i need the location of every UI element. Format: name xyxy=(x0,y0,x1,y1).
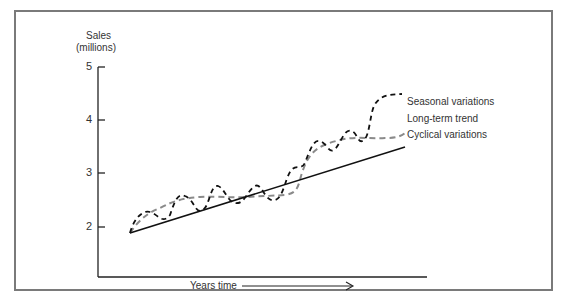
series-trend xyxy=(130,147,405,233)
legend-trend: Long-term trend xyxy=(407,113,478,124)
legend-cyclical: Cyclical variations xyxy=(407,129,487,140)
x-axis-arrow-icon xyxy=(242,282,353,290)
series-cyclical xyxy=(130,133,405,233)
axes xyxy=(98,67,427,277)
x-axis-title: Years time xyxy=(190,280,237,291)
legend-seasonal: Seasonal variations xyxy=(407,96,494,107)
series-seasonal xyxy=(130,94,402,233)
chart-plot xyxy=(0,0,564,305)
